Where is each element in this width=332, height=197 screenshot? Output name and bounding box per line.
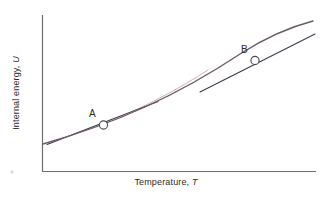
chart-figure: Internal energy, U Temperature, T A B <box>0 0 332 197</box>
point-B-label: B <box>241 44 248 55</box>
chart-plot-area <box>0 0 332 197</box>
curve-tint-overlay <box>120 70 208 117</box>
y-axis-label-text: Internal energy, <box>11 66 21 130</box>
internal-energy-curve <box>43 21 313 144</box>
y-axis-label: Internal energy, U <box>11 33 21 153</box>
scan-artifact-mark <box>10 170 13 173</box>
point-A-label: A <box>89 108 96 119</box>
y-axis-label-symbol: U <box>11 56 21 63</box>
x-axis-label-symbol: T <box>192 177 198 187</box>
point-B-marker <box>251 56 259 64</box>
point-A-marker <box>99 121 107 129</box>
x-axis-label: Temperature, T <box>0 177 332 187</box>
x-axis-label-text: Temperature, <box>134 177 189 187</box>
